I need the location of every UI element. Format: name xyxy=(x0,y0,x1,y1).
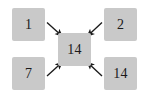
node-bottom-right: 14 xyxy=(104,57,137,90)
node-center: 14 xyxy=(58,33,91,66)
node-top-left: 1 xyxy=(12,8,45,41)
node-top-right-label: 2 xyxy=(117,18,124,32)
node-bottom-right-label: 14 xyxy=(113,67,127,81)
diagram-canvas: 1 2 14 7 14 xyxy=(0,0,146,97)
node-top-left-label: 1 xyxy=(25,18,32,32)
node-bottom-left: 7 xyxy=(12,57,45,90)
node-center-label: 14 xyxy=(67,43,81,57)
node-top-right: 2 xyxy=(104,8,137,41)
node-bottom-left-label: 7 xyxy=(25,67,32,81)
